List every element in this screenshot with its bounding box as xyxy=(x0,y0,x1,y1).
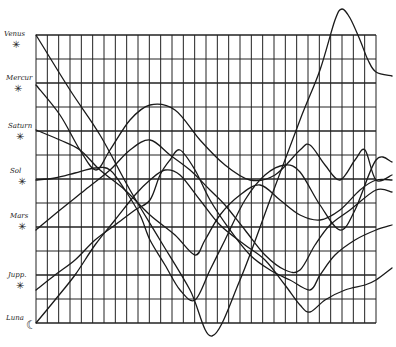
star-icon: ✳ xyxy=(16,281,24,291)
planet-label: Mars xyxy=(10,212,28,220)
chart-curves xyxy=(36,9,392,336)
curve-mercur xyxy=(36,85,392,181)
curve-jupiter xyxy=(36,150,392,290)
curve-luna xyxy=(36,170,392,323)
moon-icon: ☾ xyxy=(26,320,37,330)
curve-venus xyxy=(36,9,392,336)
planet-label: Luna xyxy=(6,314,24,322)
curve-saturn xyxy=(36,130,392,255)
planet-label: Venus xyxy=(4,30,25,38)
planet-label: Mercur xyxy=(6,74,32,82)
star-icon: ✳ xyxy=(14,84,22,94)
planet-label: Jupp. xyxy=(8,271,27,279)
star-icon: ✳ xyxy=(18,177,26,187)
star-icon: ✳ xyxy=(16,132,24,142)
planet-label: Saturn xyxy=(8,122,32,130)
planet-label: Sol xyxy=(10,167,21,175)
star-icon: ✳ xyxy=(18,222,26,232)
star-icon: ✳ xyxy=(12,40,20,50)
planetary-chart xyxy=(0,0,396,347)
